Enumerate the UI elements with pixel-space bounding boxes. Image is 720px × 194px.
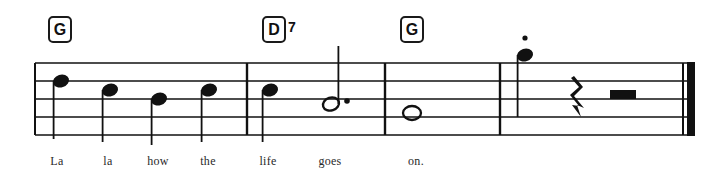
chord-d7-extension: 7 [288,19,296,35]
note-6 [321,46,350,113]
chord-d7[interactable]: D [262,16,286,43]
note-2 [100,81,120,142]
note-5 [260,81,280,142]
quarter-rest [570,76,584,117]
final-barline-thin [682,63,684,135]
lyric-on: on. [386,154,446,169]
note-7 [403,106,421,120]
final-barline-thick [687,62,695,136]
chord-g-1[interactable]: G [48,16,72,43]
augmentation-dot [344,98,350,104]
notehead-whole [403,106,421,120]
music-staff-container: GD7G Lalahowthelifegoeson. [0,0,720,194]
chord-g-2[interactable]: G [400,16,424,43]
lyric-goes: goes [300,154,360,169]
staccato-dot [522,35,527,40]
note-4 [199,81,219,142]
note-8 [515,35,535,117]
half-rest [610,90,636,99]
note-1 [51,72,71,139]
lyric-the: the [178,154,238,169]
lyric-life: life [238,154,298,169]
